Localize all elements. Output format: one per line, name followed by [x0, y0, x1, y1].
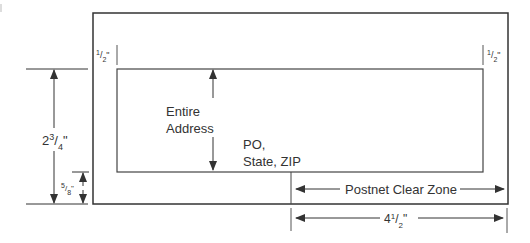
left-margin-label: 1/2": [96, 49, 110, 63]
entire-address-label-line1: Entire: [166, 104, 200, 119]
envelope-address-zone-diagram: 1/2" 1/2" 23/4" 5/8" Entire Address PO, …: [0, 0, 530, 243]
entire-address-label-line2: Address: [166, 121, 214, 136]
corner-mark: [0, 4, 2, 12]
height-label: 23/4": [42, 132, 68, 152]
right-margin-label: 1/2": [487, 49, 501, 63]
clear-zone-width-label: 41/2": [384, 212, 407, 230]
gap-label: 5/8": [61, 182, 74, 196]
envelope-outline: [93, 13, 508, 204]
po-state-zip-label-line2: State, ZIP: [243, 154, 301, 169]
po-state-zip-label-line1: PO,: [243, 137, 265, 152]
postnet-clear-zone-label: Postnet Clear Zone: [345, 182, 457, 197]
